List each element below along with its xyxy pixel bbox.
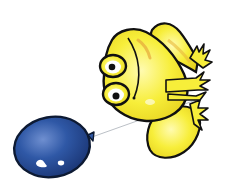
illustration	[0, 0, 236, 186]
frog-eye-top	[100, 55, 126, 77]
frog-eye-bottom	[103, 83, 129, 105]
balloon	[9, 111, 94, 183]
